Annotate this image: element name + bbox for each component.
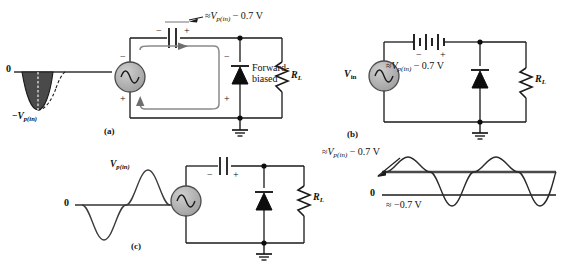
panel-b-diode-icon: [471, 70, 489, 88]
panel-a-ground-icon: [232, 118, 248, 136]
panel-a-rl-var: R: [291, 69, 298, 80]
panel-a-input-waveform: [14, 72, 112, 110]
panel-c-junction-dot-top: [261, 163, 266, 168]
panel-c-peak-label: Vp(in): [110, 160, 130, 170]
panel-c-capacitor-icon: [220, 157, 227, 175]
panel-b-rl-var: R: [535, 73, 542, 84]
panel-a-diode-label-line1: Forward-: [252, 63, 289, 73]
panel-a-junction-dot-bottom: [237, 115, 242, 120]
panel-b-resistor-label: RL: [535, 74, 546, 86]
figure-clamper-operation: 0 −Vp(in) − + − + − + ≈Vp(in) − 0.7 V Fo…: [0, 0, 576, 277]
panel-a-node-plus: +: [224, 94, 230, 104]
circuit-diagram-canvas: [0, 0, 576, 277]
panel-c-output-zero-label: 0: [370, 188, 375, 198]
panel-a-diode-icon: [231, 66, 249, 84]
panel-a-node-minus: −: [224, 52, 230, 62]
panel-b-bat-v-sub: p(in): [398, 65, 412, 73]
panel-a-cap-minus: −: [156, 26, 162, 36]
panel-c-label: (c): [131, 242, 141, 251]
panel-b-label: (b): [347, 130, 358, 139]
panel-a-cap-v-rest: − 0.7 V: [233, 10, 263, 21]
panel-a-capacitor-icon: [169, 28, 176, 48]
panel-a-current-arrow-bottom: [136, 96, 144, 106]
panel-c-output-bottom-label: ≈ −0.7 V: [386, 200, 422, 210]
panel-a-peak-label: −Vp(in): [12, 112, 37, 122]
panel-b-junction-dot-top: [477, 39, 482, 44]
panel-a-ac-source-icon: [115, 62, 145, 92]
panel-b-battery-minus: −: [416, 50, 422, 60]
panel-a-diode-label-line2: biased: [252, 74, 278, 84]
panel-c-cap-minus: −: [207, 170, 213, 180]
panel-a-junction-dot-top: [237, 35, 242, 40]
panel-a-cap-label-leader: [165, 17, 203, 23]
panel-a-loop-plus: +: [120, 94, 126, 104]
panel-b-vin-label: Vin: [344, 69, 357, 81]
panel-b-rl-sub: L: [542, 78, 546, 86]
panel-c-input-waveform: [75, 170, 175, 240]
panel-b-junction-dot-bottom: [477, 119, 482, 124]
panel-a-current-loop: [140, 46, 219, 109]
panel-a-resistor-label: RL: [291, 70, 302, 82]
panel-c-out-sub: p(in): [334, 151, 348, 159]
panel-a-peak-sub: p(in): [24, 115, 37, 122]
panel-b-resistor-icon: [520, 68, 532, 98]
panel-c-output-top-label: ≈Vp(in) − 0.7 V: [322, 147, 380, 159]
panel-a-cap-voltage-label: ≈Vp(in) − 0.7 V: [205, 11, 263, 23]
panel-c-resistor-label: RL: [313, 192, 324, 204]
panel-c-junction-dot-bottom: [261, 240, 266, 245]
panel-b-battery-voltage-label: ≈Vp(in) − 0.7 V: [386, 61, 444, 73]
panel-a-cap-v-sub: p(in): [217, 15, 231, 23]
panel-b-vin-sub: in: [351, 73, 357, 81]
panel-a-rl-sub: L: [298, 74, 302, 82]
panel-a-zero-label: 0: [6, 64, 11, 74]
panel-c-peak-sub: p(in): [116, 163, 129, 170]
panel-c-circuit: [186, 166, 304, 243]
panel-c-rl-sub: L: [320, 196, 324, 204]
panel-c-out-rest: − 0.7 V: [350, 146, 380, 157]
panel-c-resistor-icon: [298, 186, 310, 216]
panel-c-zero-label: 0: [64, 198, 69, 208]
panel-b-bat-v-rest: − 0.7 V: [414, 60, 444, 71]
panel-b-battery-plus: +: [440, 50, 446, 60]
panel-a-label: (a): [104, 127, 115, 136]
panel-c-cap-plus: +: [233, 170, 239, 180]
panel-a-cap-plus: +: [184, 26, 190, 36]
panel-c-ac-source-icon: [171, 186, 201, 216]
panel-a-current-arrow-top: [178, 43, 188, 51]
panel-b-circuit: [384, 42, 526, 122]
panel-a-loop-minus: −: [120, 52, 126, 62]
panel-c-diode-icon: [255, 192, 273, 210]
panel-b-battery-icon: [412, 34, 449, 50]
panel-b-vin-var: V: [344, 68, 351, 79]
panel-c-rl-var: R: [313, 191, 320, 202]
